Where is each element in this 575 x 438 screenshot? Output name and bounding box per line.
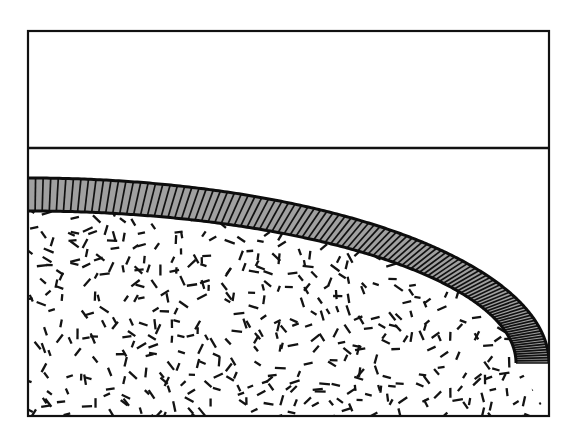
stipple-dash — [57, 401, 65, 402]
stipple-dash — [177, 335, 184, 337]
stipple-dash — [490, 389, 496, 390]
stipple-dash — [387, 394, 388, 402]
stipple-dash — [338, 342, 345, 343]
stipple-dash — [469, 398, 470, 405]
stipple-dash — [348, 294, 349, 303]
stipple-dash — [268, 375, 277, 376]
stipple-dash — [288, 273, 298, 274]
stipple-dash — [138, 232, 145, 234]
stipple-dash — [122, 336, 131, 337]
stipple-dash — [41, 405, 51, 406]
stipple-dash — [134, 269, 143, 270]
stipple-dash — [472, 317, 481, 318]
shell-rib — [42, 178, 43, 211]
stipple-dash — [257, 241, 264, 242]
stipple-dash — [234, 313, 245, 314]
stipple-dash — [419, 374, 426, 375]
stipple-dash — [280, 345, 281, 352]
stipple-dash — [82, 337, 89, 338]
stipple-dash — [154, 319, 155, 329]
stipple-dash — [69, 240, 77, 241]
stipple-dash — [336, 290, 337, 299]
stipple-dash — [348, 277, 349, 284]
stipple-dash — [111, 248, 120, 249]
cross-section-figure — [0, 0, 575, 438]
stipple-dash — [414, 297, 420, 298]
stipple-dash — [106, 388, 115, 389]
stipple-dash — [176, 235, 177, 244]
stipple-dash — [98, 295, 100, 301]
stipple-dash — [187, 284, 197, 286]
stipple-dash — [181, 231, 182, 238]
stipple-dash — [62, 294, 63, 301]
stipple-dash — [409, 285, 416, 286]
stipple-dash — [246, 251, 253, 252]
empty-upper-band — [28, 31, 549, 148]
figure-content — [3, 7, 574, 434]
shell-rib — [516, 358, 549, 359]
stipple-dash — [262, 284, 264, 290]
stipple-dash — [263, 295, 264, 304]
stipple-dash — [303, 266, 314, 267]
stipple-dash — [276, 333, 278, 339]
stipple-dash — [438, 367, 445, 368]
stipple-dash — [364, 328, 373, 329]
figure-root — [0, 0, 575, 438]
stipple-dash — [64, 413, 71, 415]
stipple-dash — [82, 406, 92, 407]
stipple-dash — [309, 251, 310, 260]
stipple-dash — [123, 265, 124, 272]
stipple-dash — [313, 389, 323, 390]
stipple-dash — [144, 256, 145, 263]
stipple-dash — [411, 332, 413, 342]
stipple-dash — [483, 345, 493, 346]
stipple-dash — [37, 265, 47, 266]
stipple-dash — [149, 353, 157, 354]
stipple-dash — [60, 320, 61, 328]
stipple-dash — [219, 356, 220, 366]
stipple-dash — [258, 253, 259, 260]
stipple-dash — [507, 388, 508, 396]
stipple-dash — [279, 253, 280, 264]
stipple-dash — [233, 293, 234, 301]
stipple-dash — [145, 368, 146, 378]
stipple-dash — [388, 386, 396, 387]
stipple-dash — [100, 273, 110, 274]
stipple-dash — [123, 233, 125, 242]
stipple-dash — [202, 256, 211, 257]
stipple-dash — [232, 331, 243, 332]
stipple-dash — [138, 297, 144, 298]
stipple-dash — [86, 249, 88, 257]
stipple-dash — [319, 383, 330, 384]
stipple-dash — [410, 311, 412, 317]
